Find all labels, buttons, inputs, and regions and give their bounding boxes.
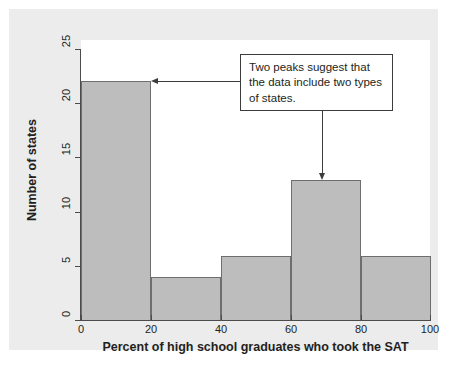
x-axis-title: Percent of high school graduates who too… [81,340,430,354]
y-axis-tick-label: 0 [60,311,72,317]
y-axis-title: Number of states [25,119,39,221]
y-axis-tick [75,212,80,213]
y-axis-tick [75,266,80,267]
x-axis-tick-label: 40 [215,323,227,335]
x-axis-tick [361,315,362,320]
annotation-line-2: the data include two types [249,75,385,90]
x-axis-tick-label: 60 [285,323,297,335]
x-axis-tick [151,315,152,320]
x-axis-tick-label: 0 [78,323,84,335]
y-axis-tick-label: 20 [60,89,72,101]
annotation-arrow-down-head [319,173,325,180]
y-axis-tick [75,320,80,321]
histogram-bar [151,277,221,321]
annotation-arrow-left-line [157,81,240,82]
y-axis-tick-label: 15 [60,143,72,155]
annotation-arrow-down-line [322,111,323,173]
y-axis-tick-label: 5 [60,257,72,263]
figure-panel: 0 20 40 60 80 100 0 5 10 15 20 25 Percen… [9,9,438,350]
y-axis-tick-label: 10 [60,197,72,209]
x-axis-tick [221,315,222,320]
y-axis-tick-label: 25 [60,35,72,47]
histogram-bar [361,256,431,321]
y-axis-tick [75,49,80,50]
annotation-line-1: Two peaks suggest that [249,60,385,75]
x-axis-tick [291,315,292,320]
histogram-figure: 0 20 40 60 80 100 0 5 10 15 20 25 Percen… [0,0,460,370]
x-axis-tick-label: 20 [145,323,157,335]
annotation-callout: Two peaks suggest that the data include … [240,54,393,111]
annotation-arrow-left-head [151,78,158,84]
y-axis-line [80,49,81,321]
y-axis-tick [75,103,80,104]
y-axis-tick [75,157,80,158]
x-axis-tick-label: 100 [421,323,439,335]
x-axis-line [75,320,431,321]
histogram-bar [221,256,291,321]
histogram-bar [81,81,151,321]
annotation-line-3: of states. [249,91,385,106]
x-axis-tick-label: 80 [355,323,367,335]
x-axis-tick [81,315,82,320]
x-axis-tick [430,315,431,320]
histogram-bar [291,180,361,321]
